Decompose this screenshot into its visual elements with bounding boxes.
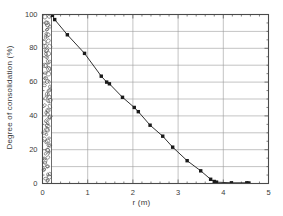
- x-axis-title: r (m): [0, 198, 283, 207]
- x-tick-label-2: 2: [125, 188, 141, 197]
- y-tick-label-100: 100: [16, 10, 38, 19]
- grid-lines: [43, 15, 269, 184]
- y-tick-label-80: 80: [16, 43, 38, 52]
- x-tick-label-5: 5: [261, 188, 277, 197]
- consolidation-chart-figure: Degree of consolidation (%) r (m) 100 80…: [0, 0, 283, 216]
- x-tick-label-1: 1: [80, 188, 96, 197]
- y-tick-label-60: 60: [16, 77, 38, 86]
- plot-canvas: [0, 0, 283, 216]
- x-tick-label-4: 4: [215, 188, 231, 197]
- y-axis-title: Degree of consolidation (%): [4, 28, 13, 168]
- x-tick-label-3: 3: [170, 188, 186, 197]
- x-tick-label-0: 0: [35, 188, 51, 197]
- y-tick-label-20: 20: [16, 145, 38, 154]
- y-tick-label-40: 40: [16, 111, 38, 120]
- y-tick-label-0: 0: [16, 179, 38, 188]
